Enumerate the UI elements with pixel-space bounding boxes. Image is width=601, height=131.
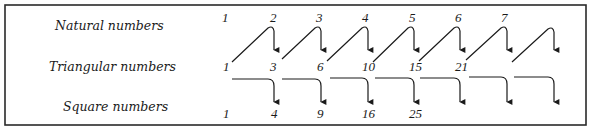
triangular-step-arrows — [232, 27, 554, 62]
triangular-number: 21 — [455, 59, 468, 74]
diagonal-arrow-icon — [282, 27, 321, 59]
hook-arrow-icon — [375, 78, 414, 102]
natural-number: 3 — [315, 10, 323, 25]
square-number: 9 — [317, 106, 324, 121]
natural-number: 6 — [455, 10, 462, 25]
square-numbers-row: 1 4 9 16 25 — [223, 106, 423, 121]
diagonal-arrow-icon — [373, 27, 414, 62]
natural-number: 5 — [409, 10, 416, 25]
natural-number: 4 — [362, 10, 369, 25]
square-number: 1 — [223, 106, 230, 121]
natural-number: 1 — [222, 10, 229, 25]
hook-arrow-icon — [330, 78, 368, 102]
row-label-square: Square numbers — [63, 99, 168, 114]
triangular-number: 15 — [409, 59, 423, 74]
square-sum-arrows — [232, 77, 554, 102]
triangular-number: 1 — [223, 59, 230, 74]
triangular-numbers-row: 1 3 6 10 15 21 — [223, 59, 468, 74]
diagonal-arrow-icon — [466, 27, 507, 60]
hook-arrow-icon — [282, 79, 321, 102]
square-number: 16 — [362, 106, 376, 121]
hook-arrow-icon — [469, 77, 507, 102]
diagonal-arrow-icon — [327, 27, 368, 61]
square-number: 25 — [409, 106, 423, 121]
square-number: 4 — [271, 106, 278, 121]
diagonal-arrow-icon — [512, 28, 554, 62]
hook-arrow-icon — [232, 79, 274, 102]
diagonal-arrow-icon — [419, 27, 460, 61]
triangular-number: 6 — [317, 59, 324, 74]
natural-number: 7 — [501, 10, 508, 25]
hook-arrow-icon — [514, 77, 554, 102]
triangular-number: 3 — [269, 59, 277, 74]
diagonal-arrow-icon — [232, 27, 274, 62]
natural-numbers-row: 1 2 3 4 5 6 7 — [222, 10, 508, 25]
row-label-triangular: Triangular numbers — [49, 59, 176, 74]
natural-number: 2 — [270, 10, 277, 25]
row-label-natural: Natural numbers — [54, 18, 164, 33]
hook-arrow-icon — [420, 78, 460, 102]
number-patterns-diagram: Natural numbers Triangular numbers Squar… — [0, 0, 601, 131]
